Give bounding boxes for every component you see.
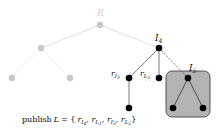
label-i4: I4: [154, 33, 163, 44]
edge-root-left: [41, 25, 100, 48]
node-ri3: [126, 75, 133, 82]
node-i5-left: [170, 105, 177, 112]
node-i5-right: [200, 105, 207, 112]
node-left-left: [9, 75, 15, 81]
edge-root-i4: [100, 25, 159, 48]
node-i5: [185, 75, 192, 82]
merkle-tree-diagram: R I4 rI3 rL5 I5 publish L = { rI4, rL1, …: [0, 0, 223, 131]
node-left-right: [67, 75, 73, 81]
edge-left-ll: [12, 48, 41, 78]
node-ri3-child: [126, 105, 133, 112]
label-ri3: rI3: [111, 69, 120, 80]
node-root: [97, 22, 103, 28]
node-i4: [156, 45, 163, 52]
node-rl5: [156, 75, 163, 82]
node-left: [38, 45, 44, 51]
publish-caption: publish L = { rI4, rL1, rI3, rL5}: [22, 115, 136, 126]
label-root: R: [96, 8, 104, 18]
label-rl5: rL5: [140, 69, 150, 80]
label-i5: I5: [188, 63, 197, 74]
edge-left-lr: [41, 48, 70, 78]
